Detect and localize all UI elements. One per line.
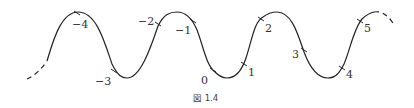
label-p2: 2 xyxy=(265,22,272,35)
label-m1: −1 xyxy=(175,24,191,37)
label-p5: 5 xyxy=(364,22,371,35)
label-p3: 3 xyxy=(292,48,299,61)
label-p4: 4 xyxy=(346,68,353,81)
figure-caption: 図 1.4 xyxy=(193,93,218,103)
sine-wave-diagram: −4−3−2−1012345 図 1.4 xyxy=(0,0,414,108)
label-m3: −3 xyxy=(95,75,111,88)
curve-dashed-left xyxy=(27,61,47,79)
tick-marks xyxy=(74,11,363,73)
curve-dashed-right xyxy=(374,12,393,23)
label-m4: −4 xyxy=(72,18,88,31)
label-p1: 1 xyxy=(248,66,255,79)
label-p0: 0 xyxy=(201,74,208,87)
tick-p0 xyxy=(210,68,216,72)
label-m2: −2 xyxy=(138,15,154,28)
